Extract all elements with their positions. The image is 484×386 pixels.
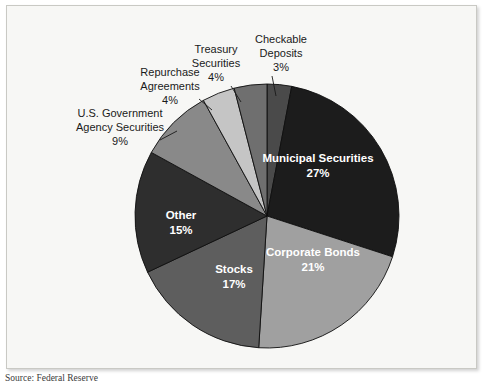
- callout-value-repurchase-agreements: 4%: [162, 94, 178, 106]
- callout-value-checkable-deposits: 3%: [273, 61, 289, 73]
- source-note: Source: Federal Reserve: [5, 373, 225, 384]
- callout-label-us-government-agency-securities-line2: Agency Securities: [76, 121, 165, 133]
- slice-label-other: Other: [166, 209, 197, 221]
- slice-value-stocks: 17%: [222, 278, 245, 290]
- callout-label-checkable-deposits-line2: Deposits: [260, 47, 303, 59]
- slice-label-corporate-bonds: Corporate Bonds: [266, 246, 360, 258]
- slice-value-municipal-securities: 27%: [306, 167, 329, 179]
- slice-value-other: 15%: [169, 224, 192, 236]
- callout-value-us-government-agency-securities: 9%: [112, 135, 128, 147]
- slice-value-corporate-bonds: 21%: [301, 261, 324, 273]
- callout-label-checkable-deposits-line1: Checkable: [255, 33, 307, 45]
- pie-chart: Municipal Securities 27% Corporate Bonds…: [0, 0, 484, 386]
- callout-label-repurchase-agreements-line1: Repurchase: [140, 66, 199, 78]
- callout-label-repurchase-agreements-line2: Agreements: [140, 80, 200, 92]
- callout-value-treasury-securities: 4%: [208, 71, 224, 83]
- callout-label-us-government-agency-securities-line1: U.S. Government: [78, 107, 163, 119]
- slice-label-stocks: Stocks: [215, 263, 253, 275]
- callout-label-treasury-securities-line1: Treasury: [195, 43, 238, 55]
- slice-label-municipal-securities: Municipal Securities: [262, 152, 373, 164]
